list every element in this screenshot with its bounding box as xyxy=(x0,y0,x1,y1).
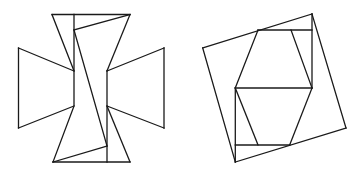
edge-segment xyxy=(235,30,258,88)
edge-segment xyxy=(291,30,312,88)
cross-dissection-figure xyxy=(19,15,165,163)
square-dissection-figure xyxy=(203,14,346,162)
edge-segment xyxy=(19,48,75,71)
edge-segment xyxy=(19,106,75,128)
edge-segment xyxy=(53,146,107,162)
edge-segment xyxy=(312,14,346,128)
edge-segment xyxy=(53,106,74,162)
edge-segment xyxy=(107,106,164,128)
edge-segment xyxy=(52,15,74,72)
diagram-canvas xyxy=(0,0,364,175)
edge-segment xyxy=(74,15,130,31)
edge-segment xyxy=(203,48,236,162)
edge-segment xyxy=(290,88,312,145)
edge-segment xyxy=(74,30,107,146)
edge-segment xyxy=(107,106,130,162)
edge-segment xyxy=(235,88,258,145)
